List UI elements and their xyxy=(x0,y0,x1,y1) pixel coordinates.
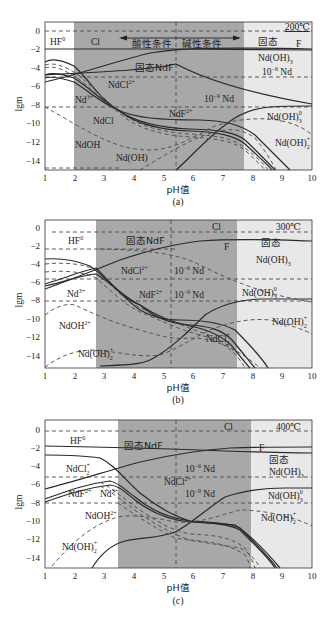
svg-text:−12: −12 xyxy=(26,534,40,544)
svg-text:9: 9 xyxy=(280,371,285,381)
label-ndcl-a: NdCl xyxy=(93,116,114,126)
svg-text:−14: −14 xyxy=(26,351,41,361)
panel-b: HF0 固态NdF Cl F 300℃ 固态 Nd(OH)3 NdCl2+ 10… xyxy=(14,220,317,406)
svg-text:10: 10 xyxy=(308,173,318,183)
x-axis-b: 1 2 3 4 5 6 7 8 9 10 pH值 (b) xyxy=(43,371,317,406)
label-ndoh2-plus-b: Nd(OH)2+ xyxy=(272,315,308,329)
svg-text:6: 6 xyxy=(191,173,196,183)
svg-text:−6: −6 xyxy=(30,479,40,489)
svg-text:2: 2 xyxy=(73,173,78,183)
svg-text:5: 5 xyxy=(162,571,167,581)
label-solid-ndf-b: 固态NdF xyxy=(126,235,165,246)
svg-text:3: 3 xyxy=(102,571,107,581)
svg-text:4: 4 xyxy=(132,371,137,381)
svg-text:7: 7 xyxy=(221,571,226,581)
label-ndoh3-0-b: Nd(OH)30 xyxy=(242,286,277,300)
svg-text:8: 8 xyxy=(251,371,256,381)
label-ndoh-a: NdOH xyxy=(75,140,100,150)
svg-text:6: 6 xyxy=(191,571,196,581)
label-ndoh2-plus-low-c: Nd(OH)2+ xyxy=(62,540,98,554)
svg-text:−14: −14 xyxy=(26,156,41,166)
label-1e-6-nd-a: 10−6 Nd xyxy=(262,66,292,77)
temperature-label-a: 200℃ xyxy=(285,22,310,32)
label-cl-b: Cl xyxy=(212,222,221,232)
svg-text:2: 2 xyxy=(73,571,78,581)
caption-a: (a) xyxy=(172,196,183,208)
label-1e-6-nd-c: 10−6 Nd xyxy=(185,463,215,474)
svg-text:1: 1 xyxy=(43,173,48,183)
label-solid-c: 固态 xyxy=(269,454,289,465)
svg-text:4: 4 xyxy=(132,173,137,183)
svg-text:−2: −2 xyxy=(30,44,40,54)
temperature-label-c: 400℃ xyxy=(276,422,301,432)
caption-b: (b) xyxy=(172,394,184,406)
svg-text:5: 5 xyxy=(162,173,167,183)
svg-text:1: 1 xyxy=(43,371,48,381)
svg-text:−4: −4 xyxy=(30,461,40,471)
svg-text:8: 8 xyxy=(251,571,256,581)
svg-text:−8: −8 xyxy=(30,498,40,508)
label-solid-ndf-a: 固态NdF xyxy=(135,62,174,73)
svg-text:10: 10 xyxy=(308,571,318,581)
label-f-b: F xyxy=(224,242,229,252)
svg-text:−14: −14 xyxy=(26,553,41,563)
x-axis-label-a: pH值 xyxy=(166,184,189,195)
label-f-a: F xyxy=(296,39,301,49)
svg-text:−10: −10 xyxy=(26,314,41,324)
label-1e-9-nd-a: 10−9 Nd xyxy=(204,93,234,104)
label-ndoh2-plus-c: Nd(OH)2+ xyxy=(261,511,297,525)
svg-text:6: 6 xyxy=(191,371,196,381)
label-1e-9-nd-c: 10−9 Nd xyxy=(185,488,215,499)
x-axis-c: 1 2 3 4 5 6 7 8 9 10 pH值 (c) xyxy=(43,571,317,607)
svg-text:2: 2 xyxy=(73,371,78,381)
label-solid-a: 固态 xyxy=(258,36,278,47)
y-axis-a: 0 −2 −4 −6 −8 −10 −12 −14 lgm xyxy=(14,26,41,166)
x-axis-label-c: pH值 xyxy=(166,582,189,593)
svg-text:3: 3 xyxy=(102,371,107,381)
x-axis-a: 1 2 3 4 5 6 7 8 9 10 pH值 (a) xyxy=(43,173,317,208)
svg-text:−6: −6 xyxy=(30,81,40,91)
svg-text:3: 3 xyxy=(102,173,107,183)
label-acidic-a: 酸性条件 xyxy=(132,38,172,49)
y-axis-label-a: lgm xyxy=(14,96,24,111)
caption-c: (c) xyxy=(172,595,183,607)
svg-text:−2: −2 xyxy=(30,443,40,453)
svg-text:−2: −2 xyxy=(30,241,40,251)
svg-text:0: 0 xyxy=(36,223,41,233)
svg-text:−10: −10 xyxy=(26,516,41,526)
label-ndohx-a: Nd(OH) xyxy=(116,153,148,164)
svg-text:−4: −4 xyxy=(30,63,40,73)
label-1e-6-nd-b: 10−6 Nd xyxy=(174,265,204,276)
label-cl-a: Cl xyxy=(91,37,100,47)
y-axis-label-b: lgm xyxy=(14,292,24,307)
svg-text:0: 0 xyxy=(36,425,41,435)
svg-text:7: 7 xyxy=(221,371,226,381)
figure: HF0 Cl 酸性条件 碱性条件 固态 F 200℃ Nd(OH)3 10−6 … xyxy=(0,0,333,621)
svg-text:7: 7 xyxy=(221,173,226,183)
temperature-label-b: 300℃ xyxy=(276,222,301,232)
label-ndoh3-0-a: Nd(OH)30 xyxy=(267,110,302,124)
panel-c: HF0 固态NdF Cl 400℃ F 固态 Nd(OH)3 NdCl2+ 10… xyxy=(14,420,317,607)
svg-text:1: 1 xyxy=(43,571,48,581)
svg-text:10: 10 xyxy=(308,371,318,381)
svg-text:9: 9 xyxy=(280,173,285,183)
svg-text:−4: −4 xyxy=(30,259,40,269)
svg-text:−8: −8 xyxy=(30,295,40,305)
y-axis-label-c: lgm xyxy=(14,494,24,509)
svg-text:−12: −12 xyxy=(26,137,40,147)
y-axis-b: 0 −2 −4 −6 −8 −10 −12 −14 lgm xyxy=(14,223,41,361)
label-cl-c: Cl xyxy=(224,422,233,432)
svg-text:9: 9 xyxy=(280,571,285,581)
label-1e-9-nd-b: 10−9 Nd xyxy=(174,289,204,300)
label-solid-b: 固态 xyxy=(261,237,281,248)
shaded-region-fluoride-b xyxy=(96,220,237,368)
svg-text:8: 8 xyxy=(251,173,256,183)
svg-text:−10: −10 xyxy=(26,118,41,128)
label-solid-ndf-c: 固态NdF xyxy=(124,440,163,451)
y-axis-c: 0 −2 −4 −6 −8 −10 −12 −14 lgm xyxy=(14,425,41,563)
label-basic-a: 碱性条件 xyxy=(182,38,222,49)
label-ndoh3-0-c: Nd(OH)30 xyxy=(268,489,303,503)
label-ndoh2-plus-a: Nd(OH)2+ xyxy=(275,136,311,150)
svg-text:5: 5 xyxy=(162,371,167,381)
svg-text:−8: −8 xyxy=(30,100,40,110)
